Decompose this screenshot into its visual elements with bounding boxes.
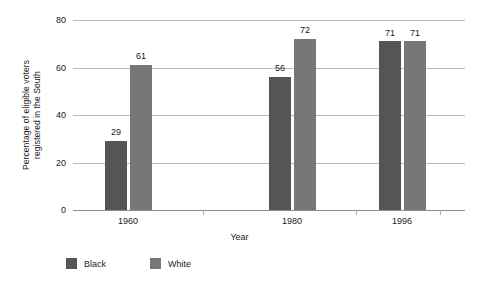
bar-1996-black[interactable] [379, 41, 401, 210]
plot-area: 29 61 56 72 71 71 1960 1980 1996 [73, 20, 465, 210]
x-category-label-1980: 1980 [282, 216, 302, 226]
gridline-80 [73, 20, 465, 21]
y-tick-label-60: 60 [26, 63, 66, 73]
legend-item-white[interactable]: White [150, 258, 191, 269]
x-category-label-1960: 1960 [118, 216, 138, 226]
legend-item-black[interactable]: Black [66, 258, 106, 269]
legend-swatch-white-icon [150, 258, 161, 269]
y-tick-label-20: 20 [26, 158, 66, 168]
bar-value-1960-black: 29 [111, 127, 121, 137]
x-axis-title: Year [0, 232, 479, 242]
y-tick-label-40: 40 [26, 110, 66, 120]
legend-label-white: White [168, 259, 191, 269]
x-minor-tick-3 [440, 210, 441, 215]
y-tick-label-0: 0 [26, 205, 66, 215]
bar-1996-white[interactable] [404, 41, 426, 210]
bar-value-1960-white: 61 [136, 51, 146, 61]
legend-swatch-black-icon [66, 258, 77, 269]
bar-1960-black[interactable] [105, 141, 127, 210]
x-minor-tick-1 [203, 210, 204, 215]
bar-chart-figure: Percentage of eligible voters registered… [0, 0, 479, 291]
bar-1980-black[interactable] [269, 77, 291, 210]
axis-line-zero [73, 210, 465, 211]
chart-legend: Black White [66, 258, 235, 269]
legend-label-black: Black [84, 259, 106, 269]
bar-value-1980-black: 56 [275, 63, 285, 73]
bar-value-1996-white: 71 [410, 28, 420, 38]
bar-1960-white[interactable] [130, 65, 152, 210]
x-minor-tick-2 [356, 210, 357, 215]
y-tick-label-80: 80 [26, 15, 66, 25]
bar-value-1996-black: 71 [385, 28, 395, 38]
x-category-label-1996: 1996 [392, 216, 412, 226]
bar-1980-white[interactable] [294, 39, 316, 210]
bar-value-1980-white: 72 [300, 25, 310, 35]
